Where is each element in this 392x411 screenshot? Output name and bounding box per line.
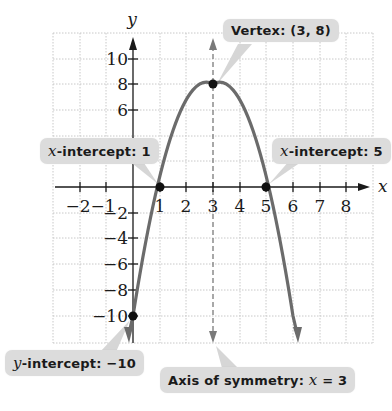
x-intercept-5-callout: x-intercept: 5 [272,138,391,164]
y-tick-label: 10 [106,49,128,69]
variable-x: x [309,371,318,389]
y-tick-label: −8 [103,280,128,300]
axis-callout-prefix: Axis of symmetry: [168,373,309,388]
variable-x: x [48,142,57,160]
x-intercept-5-text: -intercept: 5 [289,144,383,159]
arrow-down-icon [209,331,217,343]
x-intercept-5-point [262,183,271,192]
vertex-point [209,80,218,89]
y-tick-label: −2 [103,203,128,223]
y-tick-label: 6 [117,100,128,120]
x-axis-label: x [378,176,388,196]
x-tick-label: 5 [261,196,272,216]
curve-arrow-left-icon [124,327,133,343]
arrow-up-icon [209,38,217,50]
curve-arrow-right-icon [293,327,302,343]
x-tick-label: 2 [181,196,192,216]
variable-y: y [13,354,22,372]
x-tick-label: 6 [288,196,299,216]
x-tick-label: 7 [315,196,326,216]
vertex-callout-text: Vertex: (3, 8) [231,23,331,38]
axis-of-symmetry-callout: Axis of symmetry: x = 3 [160,367,355,393]
y-tick-label: −10 [92,306,128,326]
y-tick-label: 8 [117,74,128,94]
y-intercept-point [129,312,138,321]
axis-callout-suffix: = 3 [318,373,348,388]
y-intercept-callout: y-intercept: −10 [5,350,144,376]
y-tick-label: −4 [103,228,128,248]
x-intercept-1-point [156,183,165,192]
x-tick-label: 1 [155,196,166,216]
y-tick-label: −6 [103,254,128,274]
x-tick-label: 8 [341,196,352,216]
vertex-callout: Vertex: (3, 8) [223,19,339,42]
x-intercept-1-text: -intercept: 1 [57,144,151,159]
y-intercept-text: -intercept: −10 [22,356,136,371]
x-tick-label: 3 [208,196,219,216]
x-axis-arrow-icon [358,183,370,191]
y-axis-label: y [126,9,137,29]
x-axis [55,182,362,192]
y-axis-arrow-icon [129,37,137,50]
variable-x: x [280,142,289,160]
x-tick-label: −2 [65,196,90,216]
x-intercept-1-callout: x-intercept: 1 [40,138,159,164]
x-tick-label: 4 [235,196,246,216]
